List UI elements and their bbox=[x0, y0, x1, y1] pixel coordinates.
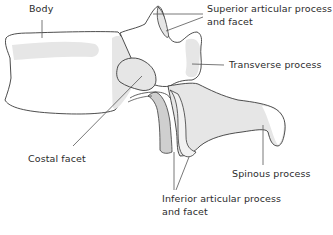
leader-superior-2 bbox=[166, 17, 203, 31]
label-transverse-line-1: Transverse process bbox=[229, 59, 322, 72]
leader-inferior-2 bbox=[176, 157, 189, 190]
label-transverse-process: Transverse process bbox=[229, 59, 322, 72]
label-costal-facet: Costal facet bbox=[28, 153, 86, 166]
label-costal-line-1: Costal facet bbox=[28, 153, 86, 166]
label-inferior-articular-process: Inferior articular process and facet bbox=[162, 193, 281, 218]
label-inferior-line-2: and facet bbox=[162, 206, 281, 219]
label-spinous-process: Spinous process bbox=[232, 168, 311, 181]
inferior-facet bbox=[148, 92, 172, 153]
transverse-process-shading bbox=[185, 39, 200, 77]
label-inferior-line-1: Inferior articular process bbox=[162, 193, 281, 206]
label-body-line-1: Body bbox=[29, 3, 53, 16]
label-superior-line-1: Superior articular process bbox=[207, 3, 332, 16]
label-superior-articular-process: Superior articular process and facet bbox=[207, 3, 332, 28]
label-body: Body bbox=[29, 3, 53, 16]
label-spinous-line-1: Spinous process bbox=[232, 168, 311, 181]
label-superior-line-2: and facet bbox=[207, 16, 332, 29]
